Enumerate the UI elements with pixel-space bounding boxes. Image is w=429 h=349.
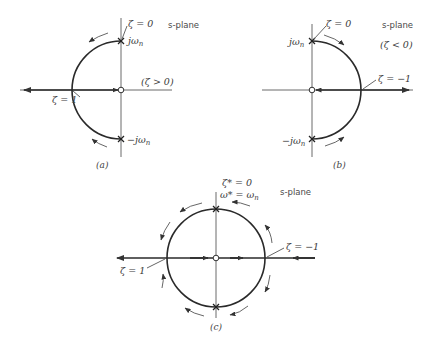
origin-marker bbox=[118, 87, 124, 93]
caption-a: (a) bbox=[96, 160, 109, 170]
zeta1-label: ζ = 1 bbox=[52, 94, 77, 105]
direction-arrow-lower-right bbox=[265, 275, 270, 292]
neg-jwn-label: −jωn bbox=[127, 134, 151, 147]
direction-arrow-lower-left bbox=[162, 274, 163, 288]
origin-marker bbox=[213, 255, 219, 261]
zetam1-leader bbox=[267, 248, 284, 257]
panel-c: ζ* = 0 ω* = ωn s-plane ζ = −1 ζ = 1 (c) bbox=[117, 177, 319, 332]
direction-arrow-top bbox=[89, 33, 108, 42]
jwn-label: jωn bbox=[287, 36, 305, 49]
zetam1-label: ζ = −1 bbox=[286, 241, 319, 252]
caption-b: (b) bbox=[333, 160, 346, 170]
zeta1-label: ζ = 1 bbox=[120, 265, 145, 276]
direction-arrow-top-right bbox=[232, 202, 250, 206]
zetam1-label: ζ = −1 bbox=[378, 73, 411, 84]
direction-arrow-upper-left bbox=[161, 222, 170, 240]
condition-label: (ζ > 0) bbox=[141, 76, 174, 87]
neg-jwn-label: −jωn bbox=[282, 135, 306, 148]
omega-star-label: ω* = ωn bbox=[220, 189, 259, 202]
zeta0-leader bbox=[314, 26, 326, 39]
s-plane-label: s-plane bbox=[382, 20, 413, 30]
direction-arrow-bottom-left bbox=[185, 308, 204, 316]
jwn-label: jωn bbox=[126, 35, 144, 48]
zeta0-leader bbox=[122, 26, 127, 39]
s-plane-label: s-plane bbox=[168, 20, 199, 30]
zeta1-leader bbox=[147, 259, 165, 268]
zetam1-leader bbox=[363, 80, 376, 89]
condition-label: (ζ < 0) bbox=[380, 39, 413, 50]
s-plane-label: s-plane bbox=[280, 187, 311, 197]
direction-arrow-bottom-right bbox=[230, 306, 248, 315]
root-locus-diagram: ζ = 0 s-plane jωn (ζ > 0) ζ = 1 −jωn (a)… bbox=[0, 0, 429, 349]
direction-arrow-bottom bbox=[92, 139, 107, 147]
panel-b: ζ = 0 s-plane (ζ < 0) jωn ζ = −1 −jωn (b… bbox=[262, 18, 413, 170]
direction-arrow-upper-right bbox=[265, 225, 272, 243]
direction-arrow-bottom bbox=[325, 137, 344, 146]
zeta0-label: ζ = 0 bbox=[326, 18, 351, 29]
zeta0-label: ζ = 0 bbox=[128, 18, 153, 29]
panel-a: ζ = 0 s-plane jωn (ζ > 0) ζ = 1 −jωn (a) bbox=[20, 18, 199, 170]
origin-marker bbox=[309, 87, 315, 93]
caption-c: (c) bbox=[210, 322, 223, 332]
zeta-star-label: ζ* = 0 bbox=[222, 177, 252, 188]
direction-arrow-top-left bbox=[180, 203, 202, 212]
